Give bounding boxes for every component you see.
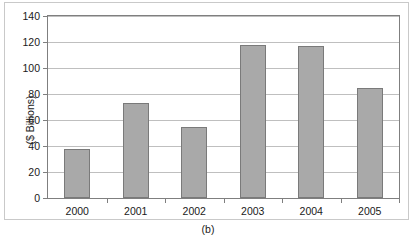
x-axis-tick	[282, 198, 283, 203]
y-axis-tick	[43, 42, 48, 43]
gridline	[48, 16, 399, 17]
x-axis-label-2005: 2005	[358, 206, 381, 217]
x-axis-label-2000: 2000	[66, 206, 89, 217]
bar-2002	[181, 127, 207, 199]
gridline	[48, 94, 399, 95]
y-axis-tick-label: 100	[22, 63, 40, 74]
x-axis-label-2001: 2001	[124, 206, 147, 217]
y-axis-tick	[43, 94, 48, 95]
y-axis-tick	[43, 146, 48, 147]
bar-chart-figure: ($ Billions) 020406080100120140200020012…	[0, 0, 416, 239]
x-axis-tick	[224, 198, 225, 203]
y-axis-tick	[43, 172, 48, 173]
x-axis-tick	[165, 198, 166, 203]
y-axis-tick	[43, 68, 48, 69]
x-axis-label-2002: 2002	[183, 206, 206, 217]
gridline	[48, 68, 399, 69]
gridline	[48, 42, 399, 43]
x-axis-tick	[341, 198, 342, 203]
y-axis-tick	[43, 16, 48, 17]
bar-2004	[298, 46, 324, 198]
x-axis-label-2004: 2004	[300, 206, 323, 217]
gridline	[48, 172, 399, 173]
bar-2001	[123, 103, 149, 198]
y-axis-tick-label: 140	[22, 11, 40, 22]
x-axis-tick	[399, 198, 400, 203]
gridline	[48, 120, 399, 121]
y-axis-tick-label: 80	[28, 89, 40, 100]
y-axis-tick	[43, 198, 48, 199]
figure-caption: (b)	[0, 224, 416, 235]
y-axis-tick-label: 120	[22, 37, 40, 48]
x-axis-tick	[107, 198, 108, 203]
plot-area: 0204060801001201402000200120022003200420…	[47, 15, 400, 199]
y-axis-tick-label: 40	[28, 141, 40, 152]
gridline	[48, 146, 399, 147]
bar-2003	[240, 45, 266, 198]
y-axis-tick-label: 20	[28, 167, 40, 178]
bar-2005	[357, 88, 383, 199]
y-axis-tick-label: 60	[28, 115, 40, 126]
x-axis-label-2003: 2003	[241, 206, 264, 217]
y-axis-tick	[43, 120, 48, 121]
y-axis-tick-label: 0	[34, 193, 40, 204]
bar-2000	[64, 149, 90, 198]
